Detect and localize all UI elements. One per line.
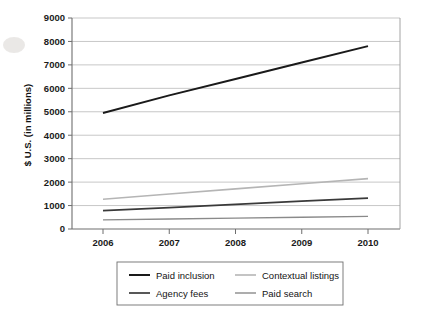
line-chart-svg: 0100020003000400050006000700080009000 20…	[0, 0, 422, 320]
y-tick-label: 9000	[44, 12, 65, 23]
x-tick-label: 2010	[357, 237, 378, 248]
legend-label: Paid inclusion	[156, 270, 215, 281]
y-tick-label: 8000	[44, 36, 65, 47]
chart-figure: 0100020003000400050006000700080009000 20…	[0, 0, 422, 320]
x-tick-label: 2006	[92, 237, 113, 248]
y-tick-label: 6000	[44, 83, 65, 94]
chart-legend: Paid inclusionContextual listingsAgency …	[117, 262, 343, 305]
y-tick-label: 0	[60, 223, 65, 234]
x-tick-label: 2008	[225, 237, 246, 248]
y-axis-title: $ U.S. (in millions)	[22, 84, 33, 166]
y-tick-label: 2000	[44, 177, 65, 188]
legend-label: Contextual listings	[262, 270, 339, 281]
paper-smudge	[3, 37, 25, 53]
y-tick-label: 3000	[44, 153, 65, 164]
legend-label: Paid search	[262, 288, 312, 299]
y-tick-label: 5000	[44, 106, 65, 117]
x-tick-label: 2007	[159, 237, 180, 248]
y-tick-label: 7000	[44, 59, 65, 70]
y-tick-label: 1000	[44, 200, 65, 211]
x-tick-label: 2009	[291, 237, 312, 248]
y-tick-label: 4000	[44, 130, 65, 141]
legend-label: Agency fees	[156, 288, 209, 299]
